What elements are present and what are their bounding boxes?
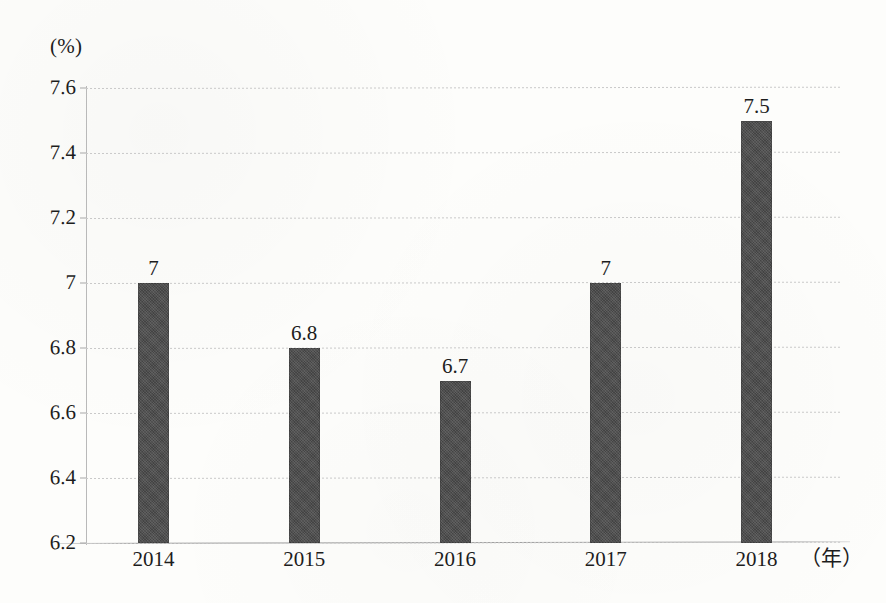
y-axis-tick-label: 6.2 <box>50 532 76 553</box>
gridline: 7.6 <box>86 87 840 89</box>
bar[interactable]: 7 <box>590 283 621 543</box>
plot-area: 7.67.47.276.86.66.46.276.86.777.5 <box>86 88 840 543</box>
x-axis-tick-label: 2014 <box>132 549 174 570</box>
gridline: 7.2 <box>86 217 840 219</box>
y-axis-tick-label: 6.8 <box>50 337 76 358</box>
y-axis-tick-label: 6.4 <box>50 467 76 488</box>
bar-value-label: 7 <box>148 258 159 279</box>
bar[interactable]: 7.5 <box>741 121 772 544</box>
bar-chart-figure: (%) 7.67.47.276.86.66.46.276.86.777.5 （年… <box>0 0 886 603</box>
bar-value-label: 7 <box>601 258 612 279</box>
gridline: 7.4 <box>86 152 840 154</box>
bar-value-label: 6.8 <box>291 323 317 344</box>
y-axis-tick-mark <box>80 348 86 349</box>
y-axis-tick-label: 6.6 <box>50 402 76 423</box>
y-axis-tick-mark <box>80 283 86 284</box>
y-axis-tick-label: 7.4 <box>50 142 76 163</box>
gridline: 7 <box>86 282 840 284</box>
bar[interactable]: 6.8 <box>289 348 320 543</box>
y-axis-tick-mark <box>80 153 86 154</box>
x-axis-unit-label: （年） <box>800 541 863 571</box>
bar-value-label: 7.5 <box>743 96 769 117</box>
x-axis-tick-label: 2017 <box>585 549 627 570</box>
bar[interactable]: 6.7 <box>440 381 471 544</box>
x-axis-tick-label: 2016 <box>434 549 476 570</box>
x-axis-tick-label: 2018 <box>736 549 778 570</box>
y-axis-tick-mark <box>80 543 86 544</box>
bar-value-label: 6.7 <box>442 356 468 377</box>
gridline: 6.8 <box>86 347 840 349</box>
y-axis-tick-mark <box>80 478 86 479</box>
x-axis-tick-label: 2015 <box>283 549 325 570</box>
y-axis-tick-label: 7.2 <box>50 207 76 228</box>
y-axis-tick-mark <box>80 88 86 89</box>
y-axis-unit-label: (%) <box>50 34 82 59</box>
y-axis-tick-mark <box>80 413 86 414</box>
y-axis-tick-label: 7 <box>65 272 76 293</box>
y-axis-tick-mark <box>80 218 86 219</box>
bar[interactable]: 7 <box>138 283 169 543</box>
y-axis-tick-label: 7.6 <box>50 77 76 98</box>
